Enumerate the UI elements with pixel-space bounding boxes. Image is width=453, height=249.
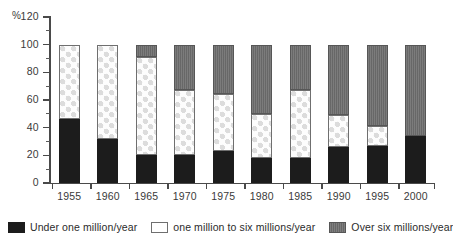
y-tick-label: 20 [27, 148, 39, 161]
y-tick-major [43, 16, 50, 17]
y-tick-label: 120 [21, 10, 39, 23]
x-tick [321, 184, 322, 189]
chart-legend: Under one million/yearone million to six… [8, 219, 438, 235]
x-tick-label-1995: 1995 [358, 190, 397, 202]
bar-segment-low[interactable] [251, 158, 272, 183]
y-tick-major [43, 44, 50, 45]
bar-segment-high[interactable] [328, 45, 349, 116]
legend-item-mid[interactable]: one million to six millions/year [151, 221, 315, 233]
x-tick [360, 184, 361, 189]
bar-segment-mid[interactable] [213, 94, 234, 151]
x-tick [244, 184, 245, 189]
bar-1990[interactable] [328, 17, 349, 183]
bar-1970[interactable] [174, 17, 195, 183]
bar-segment-mid[interactable] [290, 90, 311, 158]
x-tick-label-1960: 1960 [89, 190, 128, 202]
x-tick-label-1955: 1955 [50, 190, 89, 202]
legend-item-low[interactable]: Under one million/year [8, 221, 137, 233]
bar-segment-high[interactable] [290, 45, 311, 91]
bar-1960[interactable] [97, 17, 118, 183]
bar-segment-mid[interactable] [97, 45, 118, 139]
x-tick [129, 184, 130, 189]
y-tick-label: 100 [21, 38, 39, 51]
legend-label: one million to six millions/year [173, 221, 315, 233]
x-tick [52, 184, 53, 189]
x-tick-label-1980: 1980 [243, 190, 282, 202]
bar-segment-mid[interactable] [174, 90, 195, 155]
bar-segment-mid[interactable] [136, 57, 157, 155]
bar-segment-high[interactable] [251, 45, 272, 114]
x-tick [206, 184, 207, 189]
bar-1985[interactable] [290, 17, 311, 183]
bar-segment-low[interactable] [367, 146, 388, 183]
x-tick [434, 184, 435, 189]
x-tick [167, 184, 168, 189]
bar-segment-high[interactable] [136, 45, 157, 57]
bar-segment-low[interactable] [290, 158, 311, 183]
x-tick [283, 184, 284, 189]
bar-segment-high[interactable] [405, 45, 426, 136]
x-tick-label-1990: 1990 [320, 190, 359, 202]
y-tick-label: 60 [27, 93, 39, 106]
x-tick-label-1970: 1970 [166, 190, 205, 202]
bar-segment-low[interactable] [328, 147, 349, 183]
bar-segment-low[interactable] [405, 136, 426, 183]
bar-segment-mid[interactable] [367, 126, 388, 145]
x-tick-label-1965: 1965 [127, 190, 166, 202]
y-tick-major [43, 72, 50, 73]
y-tick-label: 0 [33, 176, 39, 189]
bar-2000[interactable] [405, 17, 426, 183]
bar-segment-high[interactable] [213, 45, 234, 95]
bar-1995[interactable] [367, 17, 388, 183]
x-tick-label-1975: 1975 [204, 190, 243, 202]
y-tick-label: 80 [27, 65, 39, 78]
x-tick-label-1985: 1985 [281, 190, 320, 202]
bar-segment-mid[interactable] [328, 115, 349, 147]
x-tick [398, 184, 399, 189]
bar-1980[interactable] [251, 17, 272, 183]
bar-1975[interactable] [213, 17, 234, 183]
legend-item-high[interactable]: Over six millions/year [329, 221, 453, 233]
bar-segment-low[interactable] [213, 151, 234, 183]
bar-segment-low[interactable] [97, 139, 118, 183]
legend-label: Under one million/year [30, 221, 137, 233]
bar-1955[interactable] [59, 17, 80, 183]
y-tick-label: 40 [27, 121, 39, 134]
bar-segment-mid[interactable] [59, 45, 80, 120]
plot-area [50, 17, 435, 183]
legend-swatch-high [329, 222, 346, 233]
y-tick-major [43, 155, 50, 156]
bar-1965[interactable] [136, 17, 157, 183]
legend-label: Over six millions/year [351, 221, 453, 233]
legend-swatch-mid [151, 222, 168, 233]
y-tick-major [43, 99, 50, 100]
legend-swatch-low [8, 222, 25, 233]
bar-segment-mid[interactable] [251, 114, 272, 158]
x-tick-label-2000: 2000 [397, 190, 436, 202]
bar-segment-high[interactable] [367, 45, 388, 127]
bar-segment-high[interactable] [174, 45, 195, 91]
x-tick [90, 184, 91, 189]
bar-segment-low[interactable] [174, 155, 195, 183]
bar-segment-low[interactable] [59, 119, 80, 183]
y-tick-major [43, 127, 50, 128]
bar-segment-low[interactable] [136, 155, 157, 183]
